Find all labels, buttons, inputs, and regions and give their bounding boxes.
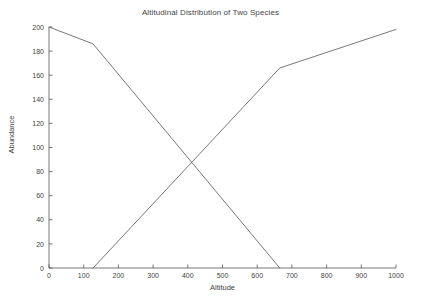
x-tick-label: 100 (78, 272, 90, 279)
x-tick-label: 600 (251, 272, 263, 279)
x-tick-label: 300 (147, 272, 159, 279)
y-tick-label: 60 (36, 192, 44, 199)
x-tick-label: 900 (355, 272, 367, 279)
series-line-rising-species (93, 29, 396, 268)
x-tick-label: 500 (217, 272, 229, 279)
x-axis-label: Altitude (49, 283, 396, 292)
x-tick-label: 200 (113, 272, 125, 279)
y-tick-label: 0 (40, 265, 44, 272)
series-line-declining-species (49, 27, 280, 268)
x-tick-label: 800 (321, 272, 333, 279)
plot-area: 0100200300400500600700800900100002040608… (0, 0, 421, 301)
axes-group (49, 27, 396, 268)
x-tick-label: 0 (47, 272, 51, 279)
data-series-group (49, 27, 396, 268)
y-axis-label: Abundance (7, 105, 16, 165)
tick-labels-group: 0100200300400500600700800900100002040608… (32, 24, 404, 279)
x-tick-label: 1000 (388, 272, 404, 279)
y-tick-label: 100 (32, 144, 44, 151)
y-tick-label: 80 (36, 168, 44, 175)
y-tick-label: 20 (36, 241, 44, 248)
y-tick-label: 180 (32, 48, 44, 55)
y-tick-label: 40 (36, 216, 44, 223)
chart-figure: Altitudinal Distribution of Two Species … (0, 0, 421, 301)
y-tick-label: 120 (32, 120, 44, 127)
x-tick-label: 700 (286, 272, 298, 279)
x-tick-label: 400 (182, 272, 194, 279)
ticks-group (49, 27, 396, 268)
y-tick-label: 200 (32, 24, 44, 31)
y-tick-label: 160 (32, 72, 44, 79)
y-tick-label: 140 (32, 96, 44, 103)
